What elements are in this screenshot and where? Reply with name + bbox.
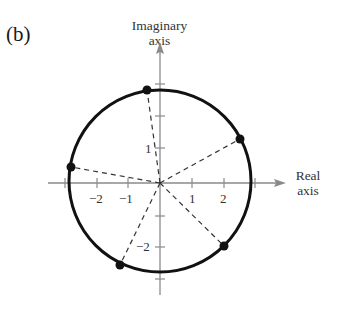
y-tick-label: 1 bbox=[145, 141, 152, 156]
y-tick-label: −2 bbox=[136, 239, 150, 254]
x-tick-label: 1 bbox=[189, 191, 196, 206]
point bbox=[220, 242, 229, 251]
point bbox=[67, 163, 76, 172]
complex-plane-diagram: −2 −1 1 2 1 −2 bbox=[0, 0, 337, 315]
point bbox=[236, 135, 245, 144]
axes bbox=[48, 48, 280, 295]
point bbox=[116, 261, 125, 270]
x-tick-label: −2 bbox=[89, 191, 103, 206]
x-tick-label: 2 bbox=[220, 191, 227, 206]
point bbox=[143, 86, 152, 95]
x-tick-label: −1 bbox=[119, 191, 133, 206]
